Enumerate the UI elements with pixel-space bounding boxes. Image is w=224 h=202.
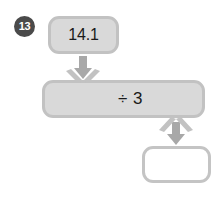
operation-box: ÷ 3 [42,80,205,118]
arrow-down-into-operation-icon [66,56,100,83]
input-value-text: 14.1 [68,26,98,44]
answer-input-box[interactable] [142,146,211,183]
input-value-box: 14.1 [48,16,119,54]
arrow-down-into-answer-icon [159,117,193,145]
operation-text: ÷ 3 [118,89,143,109]
function-machine-worksheet-item: 13 14.1 ÷ 3 [0,0,224,202]
question-number-badge: 13 [14,16,35,37]
